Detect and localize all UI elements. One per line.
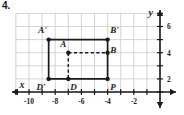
data-point bbox=[66, 77, 70, 81]
y-tick-label: 4 bbox=[167, 49, 171, 58]
x-tick-label: -6 bbox=[78, 97, 84, 106]
x-axis-arrow-right bbox=[170, 89, 176, 95]
plotted-points bbox=[46, 37, 109, 81]
data-point bbox=[46, 77, 50, 81]
worksheet-figure: 4. -10-8-6-4-2246 xy A'B'D'PABD bbox=[0, 0, 184, 115]
x-tick-label: -2 bbox=[131, 97, 137, 106]
data-point bbox=[105, 37, 109, 41]
y-tick-label: 6 bbox=[167, 22, 171, 31]
x-tick-label: -8 bbox=[52, 97, 58, 106]
data-point bbox=[66, 51, 70, 55]
point-label: P bbox=[110, 82, 116, 92]
x-axis-arrow-left bbox=[12, 89, 18, 95]
point-label: D bbox=[69, 82, 77, 92]
coordinate-plane: -10-8-6-4-2246 xy A'B'D'PABD bbox=[0, 0, 184, 115]
solid-figure bbox=[49, 40, 108, 79]
point-label: A bbox=[59, 39, 66, 49]
point-label: A' bbox=[37, 25, 47, 35]
data-point bbox=[46, 37, 50, 41]
data-point bbox=[105, 51, 109, 55]
y-axis-title: y bbox=[148, 7, 154, 18]
data-point bbox=[105, 77, 109, 81]
point-label: B bbox=[109, 45, 116, 55]
y-axis-arrow-down bbox=[157, 102, 163, 108]
axis-titles: xy bbox=[19, 7, 154, 90]
solid-rectangle bbox=[49, 40, 108, 79]
x-axis-title: x bbox=[19, 79, 25, 90]
x-tick-label: -4 bbox=[104, 97, 110, 106]
point-label: D' bbox=[35, 82, 45, 92]
point-label: B' bbox=[109, 25, 119, 35]
x-tick-label: -10 bbox=[24, 97, 34, 106]
y-tick-label: 2 bbox=[167, 75, 171, 84]
